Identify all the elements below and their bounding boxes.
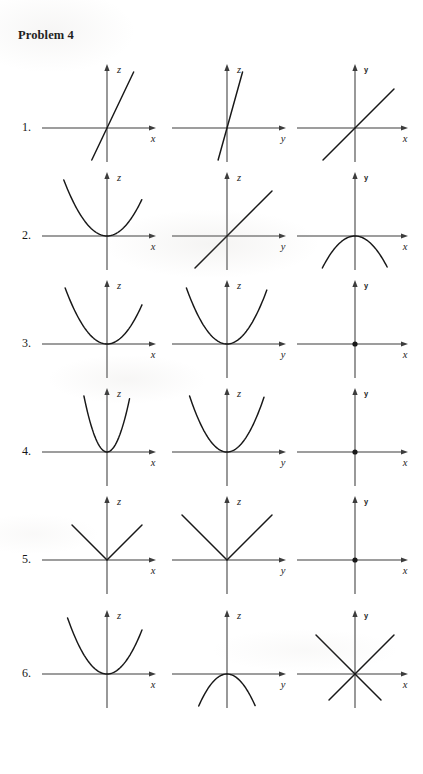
vertical-axis-label: y [364,497,369,506]
row1-col1: xz [40,58,168,164]
vertical-axis-label: y [364,65,369,74]
horizontal-axis-label: y [280,679,286,690]
row4-col3: xy [295,382,420,488]
vertical-axis-label: y [364,389,369,398]
vertical-axis-label: z [116,64,121,75]
vertical-axis-label: y [364,281,369,290]
horizontal-axis-label: x [402,679,408,690]
horizontal-axis-label: x [402,241,408,252]
row-number-label: 1. [22,120,31,135]
horizontal-axis-label: x [402,133,408,144]
horizontal-axis-label: x [150,349,156,360]
horizontal-axis-label: x [402,457,408,468]
row-number-label: 4. [22,444,31,459]
row3-col1: xz [40,274,168,380]
row6-col3: xy [295,604,420,710]
horizontal-axis-label: x [402,565,408,576]
problem-row-2: 2.xzyzxy [0,166,423,272]
horizontal-axis-label: x [150,565,156,576]
row2-col2: yz [170,166,298,272]
graph-grid: 1.xzyzxy2.xzyzxy3.xzyzxy4.xzyzxy5.xzyzxy… [0,48,423,768]
row-number-label: 2. [22,228,31,243]
row4-col2: yz [170,382,298,488]
row6-col2: yz [170,604,298,710]
vertical-axis-label: y [364,173,369,182]
horizontal-axis-label: y [280,133,286,144]
problem-row-6: 6.xzyzxy [0,604,423,710]
row-number-label: 3. [22,336,31,351]
row3-col3: xy [295,274,420,380]
horizontal-axis-label: y [280,565,286,576]
vertical-axis-label: z [116,496,121,507]
row4-col1: xz [40,382,168,488]
horizontal-axis-label: x [150,241,156,252]
problem-row-5: 5.xzyzxy [0,490,423,596]
row1-col3: xy [295,58,420,164]
vertical-axis-label: z [236,610,241,621]
vertical-axis-label: z [236,496,241,507]
row1-col2: yz [170,58,298,164]
vertical-axis-label: z [116,610,121,621]
row-number-label: 5. [22,552,31,567]
vertical-axis-label: z [116,388,121,399]
row-number-label: 6. [22,666,31,681]
horizontal-axis-label: y [280,457,286,468]
row5-col3: xy [295,490,420,596]
horizontal-axis-label: y [280,241,286,252]
horizontal-axis-label: x [150,457,156,468]
horizontal-axis-label: x [402,349,408,360]
worksheet-page: Problem 4 1.xzyzxy2.xzyzxy3.xzyzxy4.xzyz… [0,0,423,774]
row6-col1: xz [40,604,168,710]
horizontal-axis-label: x [150,679,156,690]
page-title: Problem 4 [18,28,74,43]
problem-row-3: 3.xzyzxy [0,274,423,380]
vertical-axis-label: z [236,64,241,75]
row2-col1: xz [40,166,168,272]
vertical-axis-label: z [236,280,241,291]
row5-col2: yz [170,490,298,596]
row2-col3: xy [295,166,420,272]
horizontal-axis-label: x [150,133,156,144]
vertical-axis-label: z [116,280,121,291]
vertical-axis-label: z [236,388,241,399]
vertical-axis-label: y [364,611,369,620]
problem-row-1: 1.xzyzxy [0,58,423,164]
row3-col2: yz [170,274,298,380]
row5-col1: xz [40,490,168,596]
problem-row-4: 4.xzyzxy [0,382,423,488]
vertical-axis-label: z [236,172,241,183]
vertical-axis-label: z [116,172,121,183]
horizontal-axis-label: y [280,349,286,360]
